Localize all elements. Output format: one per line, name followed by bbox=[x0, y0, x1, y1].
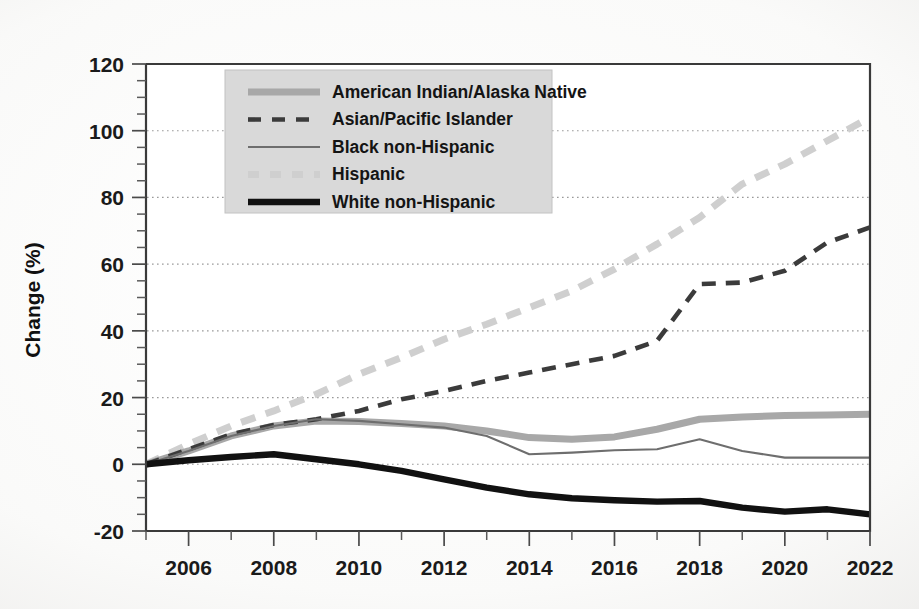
y-tick-label-80: 80 bbox=[101, 186, 124, 209]
y-tick-label-40: 40 bbox=[101, 320, 124, 343]
legend-label-american-indian-alaska-native: American Indian/Alaska Native bbox=[332, 82, 587, 102]
legend-label-white-non-hispanic: White non-Hispanic bbox=[332, 192, 496, 212]
legend-label-asian-pacific-islander: Asian/Pacific Islander bbox=[332, 109, 513, 129]
legend-label-hispanic: Hispanic bbox=[332, 164, 405, 184]
y-tick-label-60: 60 bbox=[101, 253, 124, 276]
x-tick-label-2018: 2018 bbox=[676, 556, 723, 579]
y-tick-label-0: 0 bbox=[112, 453, 124, 476]
x-tick-label-2008: 2008 bbox=[250, 556, 297, 579]
y-axis: -20020406080100120 bbox=[89, 53, 146, 543]
chart-legend: American Indian/Alaska NativeAsian/Pacif… bbox=[225, 70, 587, 213]
x-tick-label-2022: 2022 bbox=[847, 556, 894, 579]
y-tick-label-20: 20 bbox=[101, 387, 124, 410]
legend-label-black-non-hispanic: Black non-Hispanic bbox=[332, 137, 495, 157]
line-chart-figure: -20020406080100120 200620082010201220142… bbox=[0, 0, 919, 609]
x-tick-label-2010: 2010 bbox=[336, 556, 383, 579]
chart-svg: -20020406080100120 200620082010201220142… bbox=[0, 0, 919, 609]
x-tick-label-2016: 2016 bbox=[591, 556, 638, 579]
x-tick-label-2006: 2006 bbox=[165, 556, 212, 579]
x-tick-label-2020: 2020 bbox=[761, 556, 808, 579]
y-axis-title: Change (%) bbox=[21, 242, 44, 358]
x-tick-label-2014: 2014 bbox=[506, 556, 553, 579]
x-axis: 200620082010201220142016201820202022 bbox=[146, 531, 893, 579]
x-tick-label-2012: 2012 bbox=[421, 556, 468, 579]
y-tick-label-100: 100 bbox=[89, 120, 124, 143]
y-tick-label--20: -20 bbox=[94, 520, 124, 543]
y-tick-label-120: 120 bbox=[89, 53, 124, 76]
